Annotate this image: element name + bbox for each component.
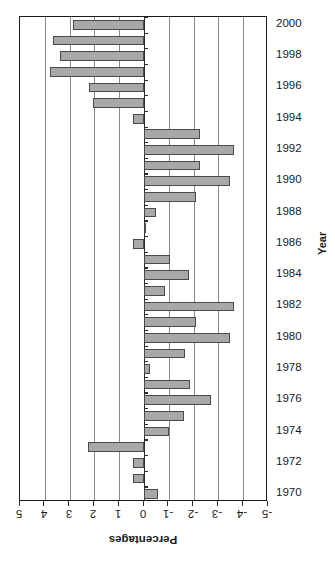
year-tick [144, 189, 148, 190]
percentage-tick [19, 501, 20, 506]
year-tick [144, 346, 148, 347]
gridline [243, 17, 244, 500]
year-axis-label: 1990 [276, 174, 302, 186]
year-tick [144, 439, 148, 440]
bar [133, 114, 144, 124]
year-tick [144, 48, 148, 49]
year-tick [144, 236, 148, 237]
bar [144, 411, 184, 421]
bar [53, 36, 144, 46]
year-axis-label: 1998 [276, 49, 302, 61]
percentage-axis-label: 2 [84, 507, 102, 519]
percentage-axis-label: -3 [208, 507, 226, 519]
percentage-tick [118, 501, 119, 506]
plot-area [19, 16, 267, 501]
year-tick [144, 220, 148, 221]
year-tick [144, 111, 148, 112]
year-tick [144, 127, 148, 128]
bar [144, 317, 196, 327]
bar [144, 427, 169, 437]
year-tick [144, 64, 148, 65]
year-tick [144, 361, 148, 362]
year-axis-label: 1980 [276, 331, 302, 343]
percentage-tick [43, 501, 44, 506]
bar [144, 161, 200, 171]
percentage-axis-label: -2 [184, 507, 202, 519]
percentage-tick [68, 501, 69, 506]
bar [50, 67, 144, 77]
percentage-axis-label: -5 [258, 507, 276, 519]
percentage-axis-label: 1 [109, 507, 127, 519]
year-axis-label: 1982 [276, 299, 302, 311]
gridline [194, 17, 195, 500]
year-tick [144, 455, 148, 456]
bar [93, 98, 144, 108]
bar [133, 474, 144, 484]
percentage-axis-label: 4 [35, 507, 53, 519]
year-tick [144, 486, 148, 487]
bar [144, 176, 230, 186]
percentages-axis-title: Percentages [95, 534, 191, 546]
year-tick [144, 17, 148, 18]
percentage-tick [217, 501, 218, 506]
percentage-tick [267, 501, 268, 506]
year-tick [144, 330, 148, 331]
percentage-tick [143, 501, 144, 506]
year-tick [144, 142, 148, 143]
bar [144, 302, 234, 312]
year-axis-label: 1970 [276, 487, 302, 499]
percentage-tick [167, 501, 168, 506]
year-tick [144, 173, 148, 174]
percentage-tick [192, 501, 193, 506]
bar [144, 129, 200, 139]
year-axis-label: 1988 [276, 206, 302, 218]
year-axis-label: 1976 [276, 393, 302, 405]
year-axis-label: 2000 [276, 18, 302, 30]
gridline [45, 17, 46, 500]
bar [144, 145, 234, 155]
year-axis-label: 1996 [276, 80, 302, 92]
year-tick [144, 424, 148, 425]
bar [144, 333, 230, 343]
bar [144, 192, 196, 202]
bar [144, 489, 158, 499]
bar [60, 51, 144, 61]
percentage-axis-label: -1 [159, 507, 177, 519]
year-tick [144, 471, 148, 472]
bar [73, 20, 144, 30]
gridline [218, 17, 219, 500]
year-tick [144, 80, 148, 81]
bar [133, 239, 144, 249]
bar [89, 83, 144, 93]
year-tick [144, 205, 148, 206]
bar [88, 442, 144, 452]
year-axis-label: 1994 [276, 112, 302, 124]
percentage-tick [242, 501, 243, 506]
percentage-tick [93, 501, 94, 506]
year-axis-label: 1984 [276, 268, 302, 280]
bar [144, 380, 190, 390]
year-tick [144, 283, 148, 284]
bar [144, 255, 170, 265]
year-tick [144, 267, 148, 268]
year-axis-label: 1972 [276, 456, 302, 468]
bar [144, 349, 185, 359]
year-tick [144, 408, 148, 409]
gridline [70, 17, 71, 500]
year-tick [144, 299, 148, 300]
bar [144, 208, 156, 218]
bar [144, 364, 150, 374]
chart-figure: Year Percentages 20001998199619941992199… [0, 0, 335, 570]
year-axis-label: 1986 [276, 237, 302, 249]
year-axis-label: 1974 [276, 425, 302, 437]
bar [144, 395, 211, 405]
percentage-axis-label: 5 [10, 507, 28, 519]
percentage-axis-label: 0 [134, 507, 152, 519]
year-tick [144, 377, 148, 378]
year-axis-label: 1992 [276, 143, 302, 155]
year-tick [144, 252, 148, 253]
bar [144, 223, 146, 233]
year-tick [144, 33, 148, 34]
bar [133, 458, 144, 468]
year-tick [144, 95, 148, 96]
